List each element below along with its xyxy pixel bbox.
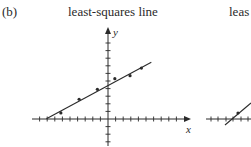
y-axis-arrow-icon	[105, 27, 111, 34]
least-squares-line	[46, 62, 151, 119]
partial-plot	[206, 103, 251, 125]
data-point	[78, 98, 81, 101]
partial-data-point	[236, 111, 239, 114]
data-point	[59, 111, 62, 114]
x-axis-label: x	[185, 123, 191, 135]
chart-canvas: y x	[0, 0, 251, 147]
data-point	[96, 88, 99, 91]
y-axis-label: y	[112, 26, 118, 38]
data-point	[128, 74, 131, 77]
x-axis-arrow-icon	[184, 116, 191, 122]
data-point	[140, 66, 143, 69]
least-squares-plot	[32, 27, 191, 146]
data-point	[113, 77, 116, 80]
